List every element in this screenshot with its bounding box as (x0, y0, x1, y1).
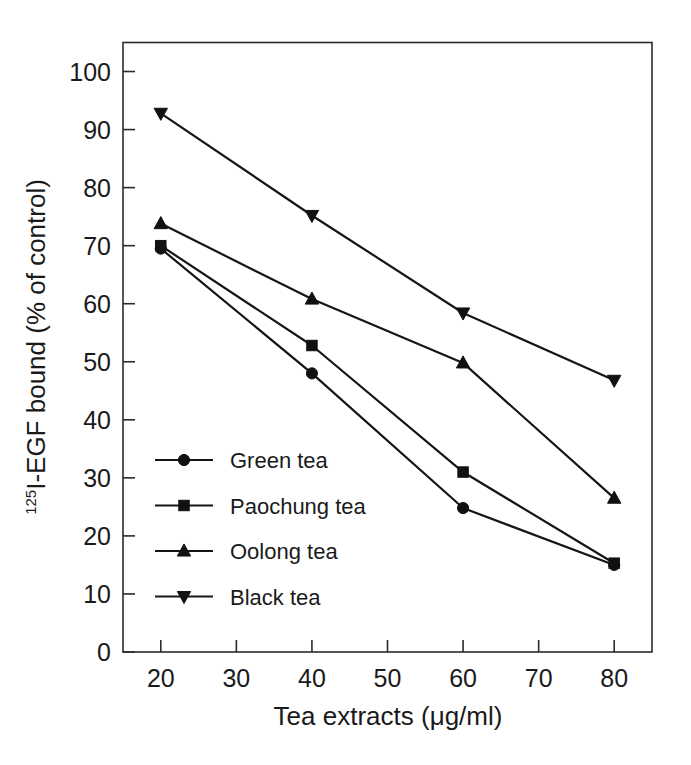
y-tick-label-10: 10 (83, 580, 111, 608)
x-axis-tick-labels: 20304050607080 (147, 664, 628, 692)
series-paochung-tea (156, 240, 620, 568)
datapoint-black-tea-x20-triangle-down-marker (154, 108, 167, 120)
x-tick-label-80: 80 (600, 664, 628, 692)
chart-canvas: 0102030405060708090100 20304050607080 Gr… (0, 0, 691, 765)
legend-green-tea-circle-marker (178, 454, 189, 465)
y-tick-label-40: 40 (83, 406, 111, 434)
legend-item-green-tea[interactable]: Green tea (155, 448, 329, 473)
legend-item-oolong-tea[interactable]: Oolong tea (155, 539, 338, 564)
chart-legend: Green teaPaochung teaOolong teaBlack tea (155, 448, 367, 610)
legend-item-paochung-tea[interactable]: Paochung tea (155, 494, 367, 519)
y-axis-tick-labels: 0102030405060708090100 (69, 58, 111, 666)
x-tick-label-70: 70 (525, 664, 553, 692)
datapoint-black-tea-x80-triangle-down-marker (608, 375, 621, 387)
legend-label-green-tea: Green tea (230, 448, 329, 473)
y-tick-label-100: 100 (69, 58, 111, 86)
datapoint-black-tea-x40-triangle-down-marker (305, 210, 318, 222)
y-tick-label-20: 20 (83, 522, 111, 550)
y-tick-label-0: 0 (97, 638, 111, 666)
datapoint-paochung-tea-x40-square-marker (307, 340, 317, 350)
y-tick-label-50: 50 (83, 348, 111, 376)
legend-label-oolong-tea: Oolong tea (230, 539, 338, 564)
series-line-black-tea (161, 113, 614, 380)
x-axis-ticks (161, 640, 614, 652)
legend-paochung-tea-square-marker (179, 500, 189, 510)
datapoint-green-tea-x40-circle-marker (306, 368, 317, 379)
series-black-tea (154, 108, 621, 387)
x-tick-label-30: 30 (222, 664, 250, 692)
y-axis-title-text: I-EGF bound (% of control) (21, 179, 51, 490)
legend-item-black-tea[interactable]: Black tea (155, 585, 321, 610)
data-series-layer (154, 108, 621, 570)
y-axis-ticks (123, 72, 135, 652)
y-tick-label-80: 80 (83, 174, 111, 202)
series-green-tea (155, 243, 620, 571)
series-line-paochung-tea (161, 246, 614, 564)
svg-text:125I-EGF bound (% of control): 125I-EGF bound (% of control) (21, 179, 51, 515)
series-line-green-tea (161, 249, 614, 565)
x-tick-label-50: 50 (374, 664, 402, 692)
datapoint-paochung-tea-x80-square-marker (609, 558, 619, 568)
x-tick-label-20: 20 (147, 664, 175, 692)
y-tick-label-30: 30 (83, 464, 111, 492)
y-tick-label-90: 90 (83, 116, 111, 144)
figure-container: 0102030405060708090100 20304050607080 Gr… (0, 0, 691, 765)
y-axis-title-superscript: 125 (22, 490, 39, 515)
y-tick-label-70: 70 (83, 232, 111, 260)
legend-label-black-tea: Black tea (230, 585, 321, 610)
datapoint-paochung-tea-x20-square-marker (156, 240, 166, 250)
datapoint-oolong-tea-x40-triangle-up-marker (305, 292, 318, 304)
x-axis-title: Tea extracts (μg/ml) (274, 701, 503, 731)
plot-frame (123, 43, 652, 653)
datapoint-green-tea-x60-circle-marker (457, 502, 468, 513)
legend-label-paochung-tea: Paochung tea (230, 494, 367, 519)
y-tick-label-60: 60 (83, 290, 111, 318)
datapoint-paochung-tea-x60-square-marker (458, 467, 468, 477)
x-tick-label-40: 40 (298, 664, 326, 692)
x-tick-label-60: 60 (449, 664, 477, 692)
series-oolong-tea (154, 217, 621, 504)
datapoint-oolong-tea-x20-triangle-up-marker (154, 217, 167, 229)
y-axis-title: 125I-EGF bound (% of control) (21, 179, 51, 515)
